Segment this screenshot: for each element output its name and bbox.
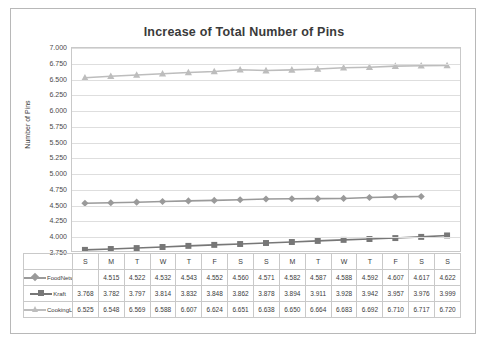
- table-cell: 6.683: [331, 302, 357, 318]
- plot-area: [71, 47, 461, 252]
- gridline: [72, 127, 460, 128]
- data-point-marker: [263, 240, 269, 246]
- data-point-marker: [262, 195, 269, 202]
- x-axis-category-label: M: [279, 254, 305, 270]
- table-cell: 6.548: [98, 302, 124, 318]
- chart-frame: Increase of Total Number of Pins Number …: [10, 8, 476, 334]
- table-cell: 3.782: [98, 286, 124, 302]
- y-tick-label: 5.000: [49, 170, 67, 177]
- data-point-marker: [133, 199, 140, 206]
- table-cell: 3.848: [202, 286, 228, 302]
- gridline: [72, 206, 460, 207]
- table-cell: 4.515: [98, 270, 124, 286]
- legend-label: CookingLight: [47, 307, 73, 313]
- table-cell: 4.587: [305, 270, 331, 286]
- gridline: [72, 190, 460, 191]
- x-axis-category-label: T: [357, 254, 383, 270]
- y-tick-label: 6.500: [49, 75, 67, 82]
- legend-entry[interactable]: FoodNetwork: [24, 270, 73, 286]
- x-axis-category-label: T: [124, 254, 150, 270]
- y-tick-label: 7.000: [49, 44, 67, 51]
- table-cell: 3.957: [383, 286, 409, 302]
- table-cell: 6.710: [383, 302, 409, 318]
- table-cell: 3.911: [305, 286, 331, 302]
- y-tick-label: 6.250: [49, 91, 67, 98]
- data-point-marker: [160, 244, 166, 250]
- table-corner-cell: [24, 254, 73, 270]
- table-cell: 4.617: [409, 270, 435, 286]
- data-point-marker: [185, 243, 191, 249]
- legend-marker-icon: [24, 273, 46, 282]
- table-cell: 3.942: [357, 286, 383, 302]
- legend-marker-icon: [24, 305, 46, 314]
- data-point-marker: [134, 245, 140, 251]
- chart-root: Increase of Total Number of Pins Number …: [0, 0, 488, 344]
- table-cell: 4.560: [228, 270, 254, 286]
- data-point-marker: [185, 197, 192, 204]
- y-tick-label: 6.000: [49, 107, 67, 114]
- table-cell: 6.638: [254, 302, 280, 318]
- data-table-legend: SMTWTFSSMTWTFSSFoodNetwork4.5154.5224.53…: [23, 253, 461, 325]
- data-point-marker: [340, 195, 347, 202]
- y-tick-label: 4.000: [49, 233, 67, 240]
- data-point-marker: [237, 241, 243, 247]
- y-tick-label: 4.250: [49, 217, 67, 224]
- table-cell: 4.522: [124, 270, 150, 286]
- table-cell: 6.525: [73, 302, 99, 318]
- table-cell: 6.650: [279, 302, 305, 318]
- table-row: CookingLight6.5256.5486.5696.5886.6076.6…: [24, 302, 461, 318]
- data-point-marker: [288, 195, 295, 202]
- x-axis-category-label: M: [98, 254, 124, 270]
- legend-entry[interactable]: Kraft: [24, 286, 73, 302]
- x-axis-category-label: S: [409, 254, 435, 270]
- table-cell: [73, 270, 99, 286]
- x-axis-category-label: W: [150, 254, 176, 270]
- data-point-marker: [392, 235, 398, 241]
- table-cell: 6.664: [305, 302, 331, 318]
- table-cell: 3.814: [150, 286, 176, 302]
- data-point-marker: [82, 247, 88, 252]
- data-point-marker: [392, 193, 399, 200]
- y-tick-label: 5.750: [49, 122, 67, 129]
- gridline: [72, 48, 460, 49]
- table-cell: 3.862: [228, 286, 254, 302]
- data-point-marker: [314, 195, 321, 202]
- table-cell: 4.543: [176, 270, 202, 286]
- legend-label: FoodNetwork: [47, 275, 73, 281]
- series-data-table: SMTWTFSSMTWTFSSFoodNetwork4.5154.5224.53…: [23, 253, 461, 318]
- y-tick-label: 4.500: [49, 201, 67, 208]
- x-axis-category-label: S: [228, 254, 254, 270]
- table-cell: 4.588: [331, 270, 357, 286]
- x-axis-category-label: T: [176, 254, 202, 270]
- table-cell: 6.692: [357, 302, 383, 318]
- data-point-marker: [211, 242, 217, 248]
- data-point-marker: [237, 196, 244, 203]
- table-cell: 4.622: [435, 270, 461, 286]
- table-cell: 3.832: [176, 286, 202, 302]
- data-point-marker: [108, 246, 114, 252]
- table-cell: 4.571: [254, 270, 280, 286]
- y-tick-label: 5.500: [49, 138, 67, 145]
- y-tick-label: 4.750: [49, 185, 67, 192]
- table-cell: 6.607: [176, 302, 202, 318]
- data-point-marker: [418, 193, 425, 200]
- table-cell: 4.592: [357, 270, 383, 286]
- data-point-marker: [366, 194, 373, 201]
- table-cell: 6.717: [409, 302, 435, 318]
- table-cell: 4.532: [150, 270, 176, 286]
- table-cell: 6.569: [124, 302, 150, 318]
- gridline: [72, 221, 460, 222]
- table-cell: 3.894: [279, 286, 305, 302]
- table-cell: 3.976: [409, 286, 435, 302]
- x-axis-category-label: S: [254, 254, 280, 270]
- gridline: [72, 237, 460, 238]
- table-header-row: SMTWTFSSMTWTFSS: [24, 254, 461, 270]
- legend-entry[interactable]: CookingLight: [24, 302, 73, 318]
- data-point-marker: [315, 238, 321, 244]
- table-row: FoodNetwork4.5154.5224.5324.5434.5524.56…: [24, 270, 461, 286]
- table-cell: 6.588: [150, 302, 176, 318]
- x-axis-category-label: F: [383, 254, 409, 270]
- gridline: [72, 64, 460, 65]
- table-cell: 3.878: [254, 286, 280, 302]
- table-cell: 4.552: [202, 270, 228, 286]
